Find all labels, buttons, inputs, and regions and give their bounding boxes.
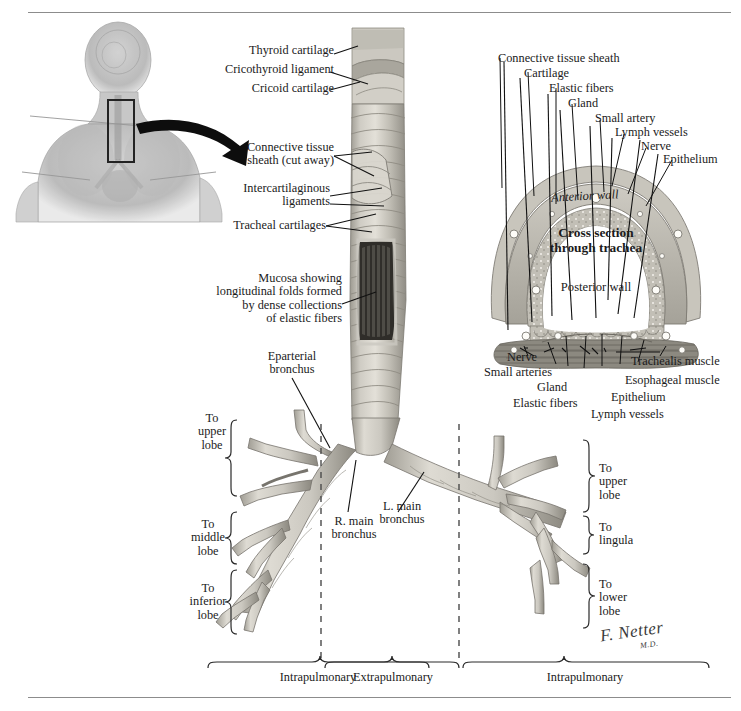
label-cs-trachealis-muscle: Trachealis muscle [631, 355, 720, 368]
region-dividers [321, 424, 459, 660]
label-cs-small-artery: Small artery [595, 112, 655, 125]
label-cs-connective-tissue-sheath: Connective tissue sheath [498, 52, 620, 65]
label-cs-elastic-fibers: Elastic fibers [549, 82, 614, 95]
label-posterior-wall: Posterior wall [534, 281, 658, 294]
trachea-illustration [350, 28, 406, 420]
label-l-main-bronchus: L. main bronchus [366, 500, 438, 527]
label-cross-section-title-1: Cross section [526, 226, 666, 239]
label-extrapulmonary: Extrapulmonary [330, 671, 456, 684]
label-cricothyroid-ligament: Cricothyroid ligament [130, 63, 334, 76]
artist-signature-suffix: M.D. [639, 639, 659, 650]
label-cs-epithelium-lower: Epithelium [611, 391, 666, 404]
label-cs-cartilage: Cartilage [524, 67, 569, 80]
netter-plate-canvas: Thyroid cartilage Cricothyroid ligament … [0, 0, 741, 711]
label-cs-elastic-fibers-lower: Elastic fibers [513, 397, 578, 410]
label-cs-lymph-vessels: Lymph vessels [615, 126, 688, 139]
label-eparterial-bronchus: Eparterial bronchus [232, 350, 352, 377]
label-anterior-wall: Anterior wall [551, 188, 619, 205]
label-intercartilaginous-ligaments: Intercartilaginous ligaments [180, 182, 330, 209]
label-to-lower-lobe: To lower lobe [599, 578, 627, 618]
label-to-upper-lobe-left: To upper lobe [186, 412, 238, 452]
header-rule [28, 12, 731, 13]
label-connective-tissue-sheath: Connective tissue sheath (cut away) [178, 141, 334, 168]
label-intrapulmonary-right: Intrapulmonary [470, 671, 700, 684]
label-tracheal-cartilages: Tracheal cartilages [174, 219, 326, 232]
label-thyroid-cartilage: Thyroid cartilage [150, 44, 334, 57]
label-cs-small-arteries: Small arteries [484, 366, 552, 379]
label-mucosa: Mucosa showing longitudinal folds formed… [166, 272, 342, 326]
label-cs-gland: Gland [568, 97, 598, 110]
label-cs-esophageal-muscle: Esophageal muscle [625, 374, 720, 387]
illustration-layer [0, 0, 741, 711]
label-to-middle-lobe: To middle lobe [178, 518, 238, 558]
label-cross-section-title-2: through trachea [526, 241, 666, 254]
label-to-upper-lobe-right: To upper lobe [599, 462, 627, 502]
label-to-lingula: To lingula [599, 521, 633, 548]
label-to-inferior-lobe: To inferior lobe [178, 582, 238, 622]
footer-rule [28, 697, 731, 698]
label-cs-nerve-lower: Nerve [507, 351, 537, 364]
label-cs-lymph-vessels-lower: Lymph vessels [591, 408, 664, 421]
label-cs-gland-lower: Gland [537, 381, 567, 394]
label-cs-epithelium: Epithelium [663, 153, 718, 166]
label-cricoid-cartilage: Cricoid cartilage [150, 82, 334, 95]
